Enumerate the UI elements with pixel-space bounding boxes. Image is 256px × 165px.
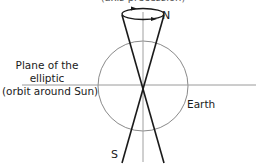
north-pole-label: N — [162, 10, 170, 21]
diagram-caption: (axis precession) — [88, 0, 198, 3]
precession-diagram: (axis precession) N S Earth Plane of the… — [0, 0, 256, 165]
plane-label-line-2: elliptic — [2, 72, 92, 85]
south-pole-label: S — [111, 149, 118, 160]
plane-label-line-1: Plane of the — [2, 59, 92, 72]
plane-label-line-3: (orbit around Sun) — [2, 85, 92, 98]
rotation-arrow-icon — [131, 7, 137, 11]
ecliptic-plane-label: Plane of the elliptic (orbit around Sun) — [2, 59, 92, 98]
earth-label: Earth — [187, 99, 215, 110]
